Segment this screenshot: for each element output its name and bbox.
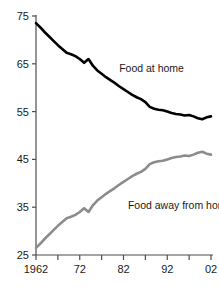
y-tick-label: 25 bbox=[17, 249, 29, 261]
series-annotations: Food at homeFood away from home bbox=[119, 62, 219, 211]
series-label: Food at home bbox=[119, 62, 184, 74]
x-axis-tick-labels: 196272829202 bbox=[24, 263, 217, 275]
y-tick-label: 35 bbox=[17, 201, 29, 213]
x-tick-label: 02 bbox=[205, 263, 217, 275]
x-tick-label: 92 bbox=[161, 263, 173, 275]
x-tick-label: 1962 bbox=[24, 263, 48, 275]
chart-container: 253545556575 196272829202 Food at homeFo… bbox=[0, 0, 219, 292]
y-tick-label: 55 bbox=[17, 106, 29, 118]
x-axis-ticks bbox=[36, 255, 211, 260]
series-label: Food away from home bbox=[128, 199, 219, 211]
y-tick-label: 65 bbox=[17, 58, 29, 70]
series-lines bbox=[36, 23, 211, 248]
y-tick-label: 45 bbox=[17, 153, 29, 165]
y-tick-label: 75 bbox=[17, 10, 29, 22]
axis-lines bbox=[36, 15, 213, 255]
line-chart: 253545556575 196272829202 Food at homeFo… bbox=[0, 0, 219, 292]
x-tick-label: 82 bbox=[117, 263, 129, 275]
y-axis-tick-labels: 253545556575 bbox=[17, 10, 29, 261]
x-tick-label: 72 bbox=[74, 263, 86, 275]
